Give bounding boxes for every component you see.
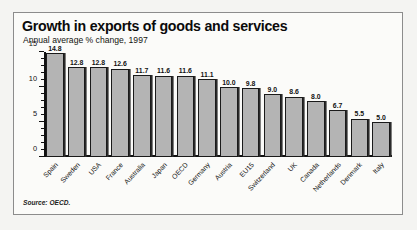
bar — [307, 101, 324, 157]
y-tick-major — [39, 156, 44, 158]
y-tick-minor — [41, 100, 44, 101]
bar-value-label: 6.7 — [333, 102, 343, 109]
bar-group: 12.8Sweden — [68, 52, 85, 157]
y-tick-label: 0 — [33, 144, 37, 153]
bar-group: 8.0Canada — [307, 52, 324, 157]
bar-group: 11.7Australia — [133, 52, 150, 157]
bar — [329, 110, 346, 157]
bar-value-label: 9.8 — [246, 80, 256, 87]
bar-value-label: 11.7 — [135, 67, 148, 74]
bar — [220, 87, 237, 157]
bar-value-label: 5.0 — [376, 114, 386, 121]
chart-figure: Growth in exports of goods and services … — [13, 12, 403, 215]
y-tick-minor — [41, 135, 44, 136]
bar — [155, 76, 172, 157]
y-tick-minor — [41, 65, 44, 66]
bar-value-label: 12.8 — [70, 59, 83, 66]
bar-group: 9.0Switzerland — [264, 52, 281, 157]
bar-value-label: 11.6 — [157, 67, 170, 74]
y-tick-major — [39, 121, 44, 123]
chart-title: Growth in exports of goods and services — [22, 18, 287, 34]
bar — [68, 67, 85, 157]
bar-group: 8.6UK — [285, 52, 302, 157]
y-tick-minor — [41, 107, 44, 108]
y-tick-label: 15 — [29, 39, 37, 48]
bar-value-label: 11.1 — [201, 71, 214, 78]
y-tick-minor — [41, 149, 44, 150]
bar — [90, 67, 107, 157]
bar — [242, 88, 259, 157]
bar-value-label: 8.6 — [289, 88, 299, 95]
bar-group: 6.7Netherlands — [329, 52, 346, 157]
y-tick-major — [39, 86, 44, 88]
y-tick-minor — [41, 93, 44, 94]
y-tick-major — [39, 51, 44, 53]
bar-group: 10.0Austria — [220, 52, 237, 157]
bar-group: 5.0Italy — [372, 52, 389, 157]
bar-group: 11.6Japan — [155, 52, 172, 157]
y-tick-minor — [41, 79, 44, 80]
bar-value-label: 8.0 — [311, 93, 321, 100]
bar-group: 9.8EU15 — [242, 52, 259, 157]
bar-group: 12.8USA — [90, 52, 107, 157]
bar — [264, 94, 281, 157]
chart-subtitle: Annual average % change, 1997 — [23, 35, 148, 45]
bar-value-label: 10.0 — [222, 79, 235, 86]
bar-group: 12.6France — [111, 52, 128, 157]
source-note: Source: OECD. — [23, 199, 70, 206]
y-tick-minor — [41, 58, 44, 59]
bar — [133, 75, 150, 157]
y-tick-minor — [41, 72, 44, 73]
bar-value-label: 12.6 — [113, 60, 126, 67]
bar — [46, 53, 63, 157]
bar — [111, 69, 128, 157]
bar-group: 11.1Germany — [198, 52, 215, 157]
bar-group: 5.5Denmark — [351, 52, 368, 157]
bar — [177, 76, 194, 157]
y-tick-minor — [41, 114, 44, 115]
bar — [285, 97, 302, 157]
bar-value-label: 5.5 — [355, 110, 365, 117]
bar-group: 11.6OECD — [177, 52, 194, 157]
bar — [198, 79, 215, 157]
y-tick-label: 5 — [33, 109, 37, 118]
bar-value-label: 9.0 — [268, 86, 278, 93]
bar-value-label: 14.8 — [48, 45, 61, 52]
y-tick-minor — [41, 128, 44, 129]
y-tick-minor — [41, 142, 44, 143]
y-tick-label: 10 — [29, 74, 37, 83]
bar-group: 14.8Spain — [46, 52, 63, 157]
bar-value-label: 11.6 — [179, 67, 192, 74]
plot-area: 051015 14.8Spain12.8Sweden12.8USA12.6Fra… — [44, 52, 392, 157]
bar-value-label: 12.8 — [92, 59, 105, 66]
